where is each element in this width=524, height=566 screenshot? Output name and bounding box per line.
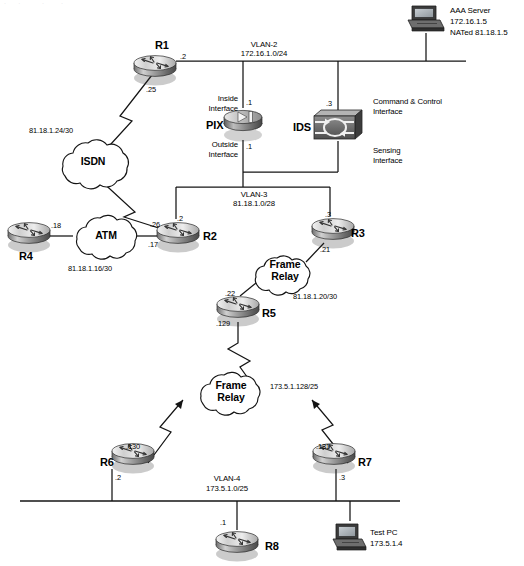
device-nat-aaa: NATed 81.18.1.5: [450, 28, 508, 38]
network-diagram: · · · · R1 .2 .25 VLAN-2 172.16.1.0/24 A…: [0, 0, 524, 566]
router-icon-r8: [216, 532, 258, 562]
device-label-r7: R7: [358, 456, 372, 469]
device-label-ids: IDS: [293, 121, 311, 134]
ids-sensing-label-line1: Sensing: [373, 146, 400, 155]
device-label-r2: R2: [203, 230, 217, 243]
octet-r2-isdn: .26: [150, 221, 160, 230]
device-label-aaa: AAA Server: [450, 6, 490, 16]
segment-label-vlan3: VLAN-3: [212, 190, 296, 199]
cloud-label-fr-upper-line1: Frame: [254, 258, 316, 270]
cloud-network-isdn: 81.18.1.24/30: [29, 127, 73, 136]
cloud-label-fr-lower-line1: Frame: [200, 379, 262, 391]
segment-network-vlan2: 172.16.1.0/24: [222, 49, 306, 58]
octet-r3-vlan3: .3: [325, 211, 331, 220]
pix-inside-label-line1: Inside: [186, 94, 238, 103]
ids-cc-label-line2: Interface: [373, 107, 402, 116]
ids-cc-label-line1: Command & Control: [373, 97, 442, 106]
cloud-label-atm: ATM: [75, 229, 137, 241]
cloud-label-fr-lower-line2: Relay: [200, 391, 262, 403]
router-icon-r1: [134, 56, 176, 86]
router-icon-r3: [312, 219, 354, 249]
device-label-r8: R8: [265, 540, 279, 553]
octet-r1-isdn: .25: [146, 86, 156, 95]
device-ip-aaa: 172.16.1.5: [450, 17, 487, 27]
device-label-r3: R3: [351, 227, 365, 240]
link-fr-r5: [240, 283, 256, 296]
octet-r6-vlan4: .2: [115, 474, 121, 483]
device-label-r4: R4: [19, 250, 33, 263]
pc-workstation-icon: [333, 524, 366, 550]
pix-outside-label-line1: Outside: [186, 140, 238, 149]
octet-r8-vlan4: .1: [220, 519, 226, 528]
pix-outside-label-line2: Interface: [186, 150, 238, 159]
cloud-network-atm: 81.18.1.16/30: [68, 265, 112, 274]
segment-label-vlan2: VLAN-2: [222, 40, 306, 49]
router-icon-r4: [8, 223, 50, 253]
device-label-pix: PIX: [206, 119, 223, 132]
firewall-icon-pix: [224, 110, 262, 141]
cloud-network-fr-lower: 173.5.1.128/25: [270, 383, 318, 392]
octet-pix-inside: .1: [246, 99, 252, 108]
octet-r7-fr: .131: [316, 443, 330, 452]
ids-sensor-icon: [314, 110, 362, 139]
ids-sensing-label-line2: Interface: [373, 156, 402, 165]
octet-r5-fr: .22: [225, 290, 235, 299]
octet-r1-vlan2: .2: [180, 53, 186, 62]
pix-inside-label-line2: Interface: [186, 104, 238, 113]
octet-r5-down: .129: [216, 320, 230, 329]
octet-r4-atm: .18: [51, 222, 61, 231]
cloud-label-isdn: ISDN: [62, 155, 124, 167]
page-top-artifact: · · · ·: [4, 0, 66, 7]
octet-r2-atm: .17: [148, 241, 158, 250]
router-icon-r2: [157, 223, 199, 253]
octet-r6-fr: .130: [126, 443, 140, 452]
segment-network-vlan3: 81.18.1.0/28: [212, 199, 296, 208]
octet-r2-vlan3: .2: [177, 215, 183, 224]
octet-r7-vlan4: .3: [339, 474, 345, 483]
link-r1-isdn: [100, 75, 152, 156]
octet-ids-cc: .3: [326, 100, 332, 109]
device-label-r1: R1: [155, 39, 169, 52]
server-workstation-icon: [408, 6, 444, 31]
octet-pix-outside: .1: [246, 143, 252, 152]
device-label-r5: R5: [262, 307, 276, 320]
segment-network-vlan4: 173.5.1.0/25: [185, 484, 269, 493]
device-ip-testpc: 173.5.1.4: [370, 539, 402, 549]
cloud-label-fr-upper-line2: Relay: [254, 270, 316, 282]
segment-label-vlan4: VLAN-4: [185, 474, 269, 483]
octet-r3-fr: .21: [320, 246, 330, 255]
device-label-testpc: Test PC: [370, 528, 397, 538]
device-label-r6: R6: [100, 456, 114, 469]
cloud-network-fr-upper: 81.18.1.20/30: [293, 293, 337, 302]
